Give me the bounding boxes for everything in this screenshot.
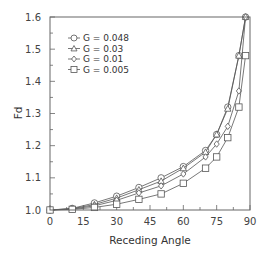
square-marker-icon bbox=[180, 180, 186, 186]
square-marker-icon bbox=[71, 67, 77, 73]
square-marker-icon bbox=[242, 52, 248, 58]
legend-label: G = 0.01 bbox=[83, 54, 123, 64]
y-tick-label: 1.6 bbox=[25, 12, 41, 23]
square-marker-icon bbox=[113, 201, 119, 207]
diamond-marker-icon bbox=[181, 171, 186, 177]
y-tick-label: 1.0 bbox=[25, 205, 41, 216]
series-line bbox=[50, 17, 246, 210]
chart: 0153045607590 1.01.11.21.31.41.51.6 Rece… bbox=[0, 0, 265, 257]
square-marker-icon bbox=[236, 104, 242, 110]
y-tick-label: 1.5 bbox=[25, 44, 41, 55]
square-marker-icon bbox=[225, 134, 231, 140]
x-tick-labels: 0153045607590 bbox=[47, 216, 257, 227]
x-tick-label: 0 bbox=[47, 216, 53, 227]
legend: G = 0.048G = 0.03G = 0.01G = 0.005 bbox=[68, 33, 129, 74]
y-tick-label: 1.1 bbox=[25, 172, 41, 183]
series-g-0-03 bbox=[47, 14, 249, 213]
x-tick-label: 75 bbox=[210, 216, 223, 227]
legend-item: G = 0.048 bbox=[68, 33, 129, 43]
series-line bbox=[50, 17, 246, 210]
legend-label: G = 0.005 bbox=[83, 65, 129, 75]
y-tick-label: 1.2 bbox=[25, 140, 41, 151]
legend-item: G = 0.005 bbox=[68, 65, 129, 75]
legend-item: G = 0.01 bbox=[68, 54, 123, 64]
plot-frame bbox=[50, 17, 250, 210]
x-tick-label: 45 bbox=[144, 216, 157, 227]
square-marker-icon bbox=[136, 196, 142, 202]
legend-label: G = 0.048 bbox=[83, 33, 129, 43]
x-tick-label: 15 bbox=[77, 216, 90, 227]
circle-marker-icon bbox=[71, 35, 77, 41]
diamond-marker-icon bbox=[72, 56, 77, 62]
x-tick-label: 60 bbox=[177, 216, 190, 227]
data-series bbox=[47, 14, 249, 213]
legend-item: G = 0.03 bbox=[68, 44, 123, 54]
square-marker-icon bbox=[69, 206, 75, 212]
square-marker-icon bbox=[202, 165, 208, 171]
series-g-0-048 bbox=[47, 14, 249, 213]
x-axis-title: Receding Angle bbox=[109, 234, 191, 246]
y-axis-title: Fd bbox=[12, 107, 24, 120]
axis-ticks bbox=[50, 17, 250, 210]
y-tick-label: 1.4 bbox=[25, 76, 41, 87]
x-tick-label: 90 bbox=[244, 216, 257, 227]
series-line bbox=[50, 17, 246, 210]
y-tick-label: 1.3 bbox=[25, 108, 41, 119]
legend-label: G = 0.03 bbox=[83, 44, 123, 54]
square-marker-icon bbox=[158, 191, 164, 197]
square-marker-icon bbox=[213, 154, 219, 160]
x-tick-label: 30 bbox=[110, 216, 123, 227]
y-tick-labels: 1.01.11.21.31.41.51.6 bbox=[25, 12, 41, 216]
